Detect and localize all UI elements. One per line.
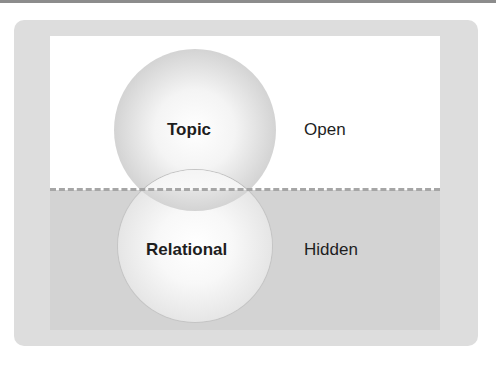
topic-label: Topic xyxy=(167,120,211,140)
relational-circle-overlap-cap xyxy=(118,170,272,190)
relational-label: Relational xyxy=(146,240,227,260)
circle-overlap xyxy=(50,36,440,190)
region-separator-dashed-line xyxy=(50,188,440,191)
open-label: Open xyxy=(304,120,346,140)
top-rule xyxy=(0,0,496,3)
hidden-label: Hidden xyxy=(304,240,358,260)
